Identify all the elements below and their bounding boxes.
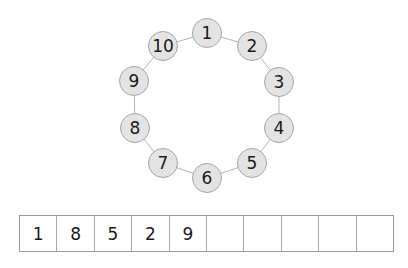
answer-cell-3[interactable]: 5 bbox=[95, 216, 132, 251]
ring-node-label: 4 bbox=[274, 120, 285, 137]
answer-cell-4[interactable]: 2 bbox=[132, 216, 169, 251]
ring-node-8: 8 bbox=[120, 113, 150, 143]
ring-node-label: 1 bbox=[202, 25, 213, 42]
answer-cell-1[interactable]: 1 bbox=[20, 216, 57, 251]
answer-cell-7[interactable] bbox=[244, 216, 281, 251]
ring-node-label: 6 bbox=[202, 170, 213, 187]
ring-node-label: 9 bbox=[129, 73, 140, 90]
answer-table: 1 8 5 2 9 bbox=[19, 215, 394, 252]
ring-node-2: 2 bbox=[237, 31, 267, 61]
ring-node-7: 7 bbox=[148, 148, 178, 178]
ring-node-10: 10 bbox=[148, 31, 178, 61]
ring-node-label: 2 bbox=[247, 38, 258, 55]
answer-cell-10[interactable] bbox=[357, 216, 393, 251]
ring-node-label: 10 bbox=[152, 38, 174, 55]
ring-node-6: 6 bbox=[192, 163, 222, 193]
ring-node-label: 7 bbox=[158, 155, 169, 172]
ring-node-9: 9 bbox=[119, 66, 149, 96]
ring-node-5: 5 bbox=[237, 148, 267, 178]
answer-cell-8[interactable] bbox=[282, 216, 319, 251]
ring-node-label: 8 bbox=[130, 120, 141, 137]
ring-node-label: 3 bbox=[274, 74, 285, 91]
answer-cell-9[interactable] bbox=[319, 216, 356, 251]
ring-node-label: 5 bbox=[247, 155, 258, 172]
ring-node-3: 3 bbox=[264, 67, 294, 97]
answer-cell-6[interactable] bbox=[207, 216, 244, 251]
answer-cell-2[interactable]: 8 bbox=[57, 216, 94, 251]
ring-node-1: 1 bbox=[192, 18, 222, 48]
ring-node-4: 4 bbox=[264, 113, 294, 143]
answer-cell-5[interactable]: 9 bbox=[170, 216, 207, 251]
